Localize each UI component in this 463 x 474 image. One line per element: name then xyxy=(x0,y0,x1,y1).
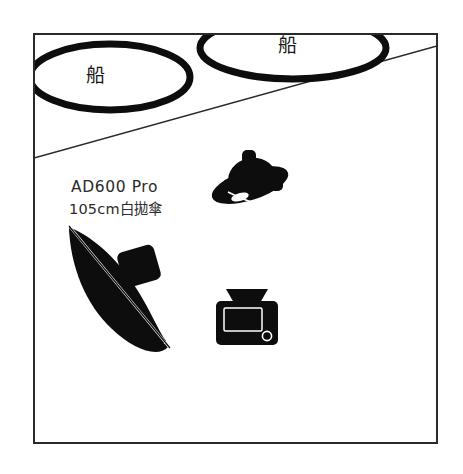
strobe-indicator-dot xyxy=(263,197,267,201)
boat-left-label: 船 xyxy=(86,66,105,85)
lighting-setup-diagram: 船 船 AD600 Pro 105cm白拋傘 xyxy=(0,0,463,474)
scene-canvas xyxy=(0,0,463,474)
room-floor xyxy=(34,34,437,443)
strobe-top-knob xyxy=(242,150,256,164)
boat-right-label: 船 xyxy=(278,36,297,55)
strobe-side-knob xyxy=(270,178,283,191)
light-spec-label: 105cm白拋傘 xyxy=(69,202,162,217)
light-name-label: AD600 Pro xyxy=(71,180,158,196)
